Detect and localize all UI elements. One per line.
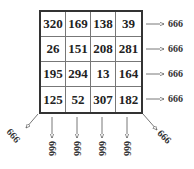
row-2-sum: 666	[168, 68, 183, 79]
row-1-sum: 666	[168, 43, 183, 54]
row-3-sum: 666	[168, 93, 183, 104]
anti-diagonal-arrow-icon	[26, 114, 38, 128]
col-1-sum: 666	[72, 141, 83, 156]
col-3-sum: 666	[122, 141, 133, 156]
col-2-sum: 666	[97, 141, 108, 156]
col-0-sum: 666	[47, 141, 58, 156]
main-diagonal-arrow-icon	[143, 114, 157, 130]
row-0-sum: 666	[168, 18, 183, 29]
